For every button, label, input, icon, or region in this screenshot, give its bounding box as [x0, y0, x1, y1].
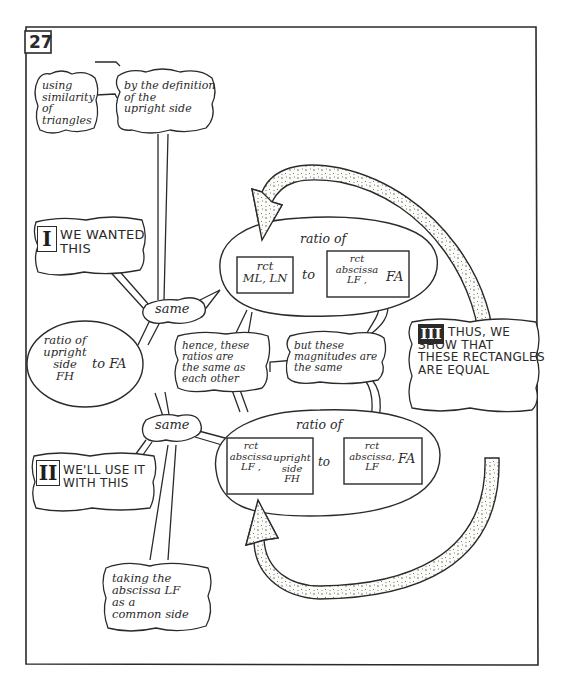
bottom-ellipse-title: ratio of: [296, 418, 342, 431]
roman-numeral-one: I: [37, 226, 57, 252]
panel-number: 27: [29, 32, 53, 52]
callout-use-it-text: WE'LL USE IT WITH THIS: [63, 464, 145, 489]
roman-numeral-two: II: [36, 460, 60, 486]
left-ellipse-ratio-text: ratio of upright side FH: [38, 334, 92, 382]
callout-hence-text: hence, these ratios are the same as each…: [182, 340, 249, 384]
left-ellipse-to-fa-text: to FA: [92, 357, 126, 371]
top-box2-text-a: rct abscissa LF ,: [330, 254, 384, 286]
callout-show-text: THUS, WE SHOW THAT THESE RECTANGLES ARE …: [418, 326, 545, 376]
bottom-box2-text-b: FA: [398, 452, 415, 466]
same-bottom-text: same: [155, 418, 189, 432]
callout-definition-text: by the definition of the upright side: [124, 80, 215, 115]
same-top-text: same: [155, 302, 189, 316]
top-box1-text: rct ML, LN: [237, 260, 293, 284]
callout-but-these-text: but these magnitudes are the same: [294, 340, 377, 373]
bottom-box1-text-a: rct abscissa LF ,: [228, 441, 274, 473]
top-ellipse-title: ratio of: [300, 232, 346, 245]
callout-wanted-text: WE WANTED THIS: [60, 228, 145, 255]
callout-common-side-text: taking the abscissa LF as a common side: [112, 572, 189, 620]
bottom-to-text: to: [318, 456, 330, 469]
top-to-text: to: [302, 268, 315, 282]
callout-similarity-text: using similarity of triangles: [42, 80, 95, 126]
top-box2-text-b: FA: [386, 270, 403, 284]
bottom-box1-text-b: upright side FH: [272, 453, 312, 485]
bottom-box2-text-a: rct abscissa, LF: [346, 441, 398, 473]
